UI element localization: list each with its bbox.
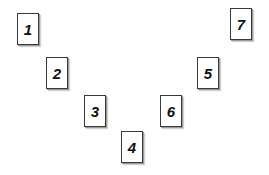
card-5: 5 [197, 57, 219, 89]
card-6: 6 [160, 95, 182, 127]
card-number: 2 [53, 66, 61, 81]
card-number: 7 [237, 17, 245, 32]
card-3: 3 [84, 95, 106, 127]
card-number: 1 [24, 22, 32, 37]
card-2: 2 [46, 57, 68, 89]
card-number: 6 [167, 104, 175, 119]
card-1: 1 [17, 13, 39, 45]
card-number: 5 [204, 66, 212, 81]
card-4: 4 [121, 131, 143, 163]
card-number: 4 [128, 140, 136, 155]
card-7: 7 [230, 8, 252, 40]
card-number: 3 [91, 104, 99, 119]
